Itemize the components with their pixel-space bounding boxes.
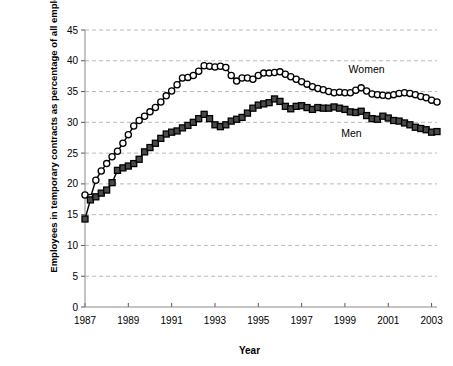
data-point-men (136, 156, 142, 162)
x-tick-label: 1993 (204, 315, 227, 326)
data-point-women (228, 72, 234, 78)
data-point-men (104, 187, 110, 193)
data-point-women (196, 68, 202, 74)
y-tick-label: 20 (67, 178, 79, 189)
y-tick-label: 45 (67, 25, 79, 36)
y-axis-ticks: 051015202530354045 (67, 25, 85, 313)
x-tick-label: 1991 (161, 315, 184, 326)
data-point-women (174, 82, 180, 88)
line-chart-plot: 051015202530354045 198719891991199319951… (0, 0, 453, 366)
data-point-women (190, 72, 196, 78)
series-lines (85, 66, 437, 219)
data-point-men (109, 180, 115, 186)
x-tick-label: 1987 (74, 315, 97, 326)
data-point-women (125, 132, 131, 138)
x-tick-label: 1999 (334, 315, 357, 326)
x-axis-title-text: Year (193, 345, 260, 356)
series-line-women (85, 66, 437, 198)
data-point-women (98, 168, 104, 174)
y-tick-label: 25 (67, 148, 79, 159)
series-markers (82, 63, 440, 222)
data-point-women (169, 88, 175, 94)
x-tick-label: 1995 (247, 315, 270, 326)
data-point-men (207, 116, 213, 122)
x-tick-label: 1989 (117, 315, 140, 326)
x-tick-label: 1997 (290, 315, 313, 326)
x-tick-label: 2001 (377, 315, 400, 326)
x-axis-ticks: 198719891991199319951997199920012003 (74, 303, 443, 326)
data-point-men (82, 216, 88, 222)
data-point-women (93, 177, 99, 183)
y-tick-label: 10 (67, 240, 79, 251)
data-point-women (163, 93, 169, 99)
series-annotation-women: Women (349, 63, 385, 75)
data-point-women (109, 154, 115, 160)
data-point-women (158, 99, 164, 105)
chart-container: Employees in temporary contracts as perc… (0, 0, 453, 366)
data-point-women (434, 99, 440, 105)
data-point-women (152, 104, 158, 110)
y-tick-label: 30 (67, 117, 79, 128)
data-point-women (141, 113, 147, 119)
series-annotations: WomenMen (341, 63, 385, 139)
y-tick-label: 15 (67, 209, 79, 220)
data-point-women (223, 64, 229, 70)
y-tick-label: 5 (72, 271, 78, 282)
data-point-women (131, 123, 137, 129)
data-point-women (104, 160, 110, 166)
data-point-men (434, 129, 440, 135)
data-point-women (120, 140, 126, 146)
data-point-women (136, 117, 142, 123)
data-point-women (114, 148, 120, 154)
y-tick-label: 0 (72, 302, 78, 313)
y-tick-label: 40 (67, 55, 79, 66)
series-annotation-men: Men (341, 127, 362, 139)
data-point-women (147, 109, 153, 115)
x-axis-title: Year (0, 345, 453, 356)
y-tick-label: 35 (67, 86, 79, 97)
x-tick-label: 2003 (420, 315, 443, 326)
